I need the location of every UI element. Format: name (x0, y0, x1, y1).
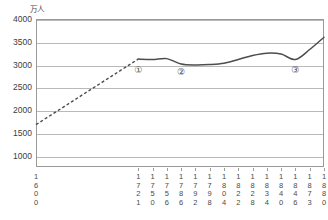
x-tick-mark-1873 (310, 168, 311, 171)
annotation-marker-3: ③ (289, 65, 301, 75)
x-tick-mark-1792 (195, 168, 196, 171)
x-tick-mark-1828 (253, 168, 254, 171)
x-tick-mark-1756 (167, 168, 168, 171)
dashed-estimate-segment (36, 59, 138, 125)
x-tick-digit: 6 (290, 199, 300, 208)
x-tick-digit: 0 (31, 199, 41, 208)
y-tick-label-2500: 2500 (0, 83, 32, 91)
population-line (138, 37, 324, 65)
x-tick-mark-1750 (153, 168, 154, 171)
x-tick-digit: 0 (148, 199, 158, 208)
x-tick-digit: 4 (219, 199, 229, 208)
x-tick-label-1846: 1846 (290, 173, 300, 207)
x-tick-digit: 0 (276, 199, 286, 208)
x-tick-digit: 2 (233, 199, 243, 208)
x-tick-label-1756: 1756 (162, 173, 172, 207)
y-tick-label-1500: 1500 (0, 129, 32, 137)
x-tick-digit: 8 (248, 199, 258, 208)
x-tick-mark-1846 (295, 168, 296, 171)
x-tick-label-1834: 1834 (262, 173, 272, 207)
x-tick-label-1786: 1786 (176, 173, 186, 207)
x-tick-label-1828: 1828 (248, 173, 258, 207)
y-tick-label-2000: 2000 (0, 106, 32, 114)
x-tick-mark-1786 (181, 168, 182, 171)
x-tick-label-1750: 1750 (148, 173, 158, 207)
y-tick-label-3000: 3000 (0, 61, 32, 69)
x-tick-mark-1840 (281, 168, 282, 171)
x-tick-digit: 2 (190, 199, 200, 208)
x-tick-digit: 4 (262, 199, 272, 208)
x-tick-label-1873: 1873 (305, 173, 315, 207)
x-tick-mark-1798 (210, 168, 211, 171)
x-tick-mark-1822 (238, 168, 239, 171)
x-tick-digit: 1 (133, 199, 143, 208)
x-tick-label-1804: 1804 (219, 173, 229, 207)
x-tick-digit: 6 (176, 199, 186, 208)
x-tick-digit: 6 (162, 199, 172, 208)
x-tick-digit: 0 (319, 199, 328, 208)
annotation-marker-1: ① (132, 65, 144, 75)
data-line-layer (36, 19, 324, 167)
x-tick-digit: 3 (305, 199, 315, 208)
y-tick-label-1000: 1000 (0, 152, 32, 160)
x-tick-label-1798: 1798 (205, 173, 215, 207)
x-tick-label-1600: 1600 (31, 173, 41, 207)
x-tick-label-1721: 1721 (133, 173, 143, 207)
x-tick-digit: 8 (205, 199, 215, 208)
x-tick-label-1840: 1840 (276, 173, 286, 207)
population-line-chart: 万人 1000150020002500300035004000 16001721… (0, 0, 328, 220)
x-tick-mark-1804 (224, 168, 225, 171)
x-tick-label-1792: 1792 (190, 173, 200, 207)
annotation-marker-2: ② (175, 67, 187, 77)
x-tick-mark-1721 (138, 168, 139, 171)
x-tick-label-1880: 1880 (319, 173, 328, 207)
x-tick-label-1822: 1822 (233, 173, 243, 207)
y-tick-label-4000: 4000 (0, 15, 32, 23)
x-tick-mark-1834 (267, 168, 268, 171)
y-tick-label-3500: 3500 (0, 38, 32, 46)
x-tick-mark-1880 (324, 168, 325, 171)
